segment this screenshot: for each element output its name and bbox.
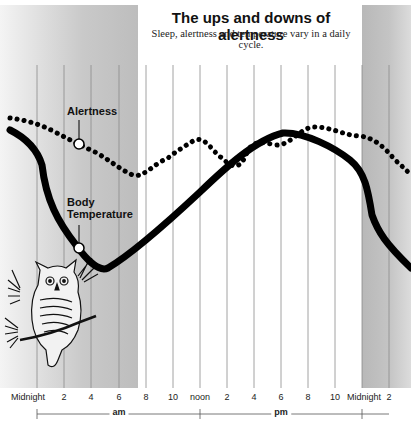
alertness-curve [10,118,411,176]
x-tick: 6 [278,392,283,402]
plot-area [0,0,411,421]
x-tick: 4 [88,392,93,402]
x-tick: 8 [305,392,310,402]
x-tick: Midnight [11,392,45,402]
x-tick: 2 [224,392,229,402]
body-temperature-label-line1: Body [67,196,95,208]
x-tick: 4 [251,392,256,402]
x-tick: 2 [61,392,66,402]
x-tick: 2 [386,392,391,402]
am-pm-brackets [37,409,389,419]
x-tick: 10 [330,392,340,402]
owl-icon [5,258,98,367]
alertness-marker [74,120,84,149]
body-temperature-label-line2: Temperature [67,208,133,220]
pm-label: pm [271,407,291,417]
x-tick: 8 [143,392,148,402]
x-tick: noon [190,392,210,402]
alertness-label: Alertness [67,105,117,117]
am-label: am [109,407,128,417]
x-tick: 6 [116,392,121,402]
x-tick: Midnight [347,392,381,402]
x-tick: 10 [168,392,178,402]
